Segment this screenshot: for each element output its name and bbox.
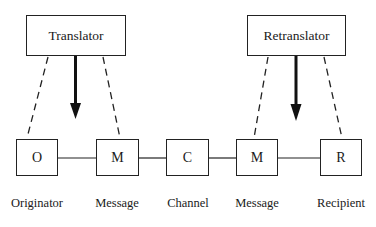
retranslator-arrowhead	[291, 104, 302, 121]
channel-caption: Channel	[148, 196, 228, 211]
originator-symbol: O	[32, 150, 42, 166]
message-caption-1: Message	[77, 196, 157, 211]
channel-node: C	[166, 139, 209, 176]
channel-symbol: C	[183, 150, 192, 166]
message-node-1: M	[96, 139, 139, 176]
recipient-node: R	[320, 139, 362, 176]
message-symbol-2: M	[251, 150, 263, 166]
translator-box: Translator	[26, 15, 126, 56]
retranslator-box: Retranslator	[247, 15, 346, 56]
recipient-caption: Recipient	[301, 196, 376, 211]
originator-node: O	[16, 139, 58, 176]
message-node-2: M	[236, 139, 278, 176]
originator-caption: Originator	[0, 196, 77, 211]
retranslator-label: Retranslator	[264, 28, 330, 44]
translator-label: Translator	[48, 28, 103, 44]
recipient-symbol: R	[336, 150, 345, 166]
translator-arrowhead	[70, 103, 81, 119]
message-symbol-1: M	[111, 150, 123, 166]
message-caption-2: Message	[217, 196, 297, 211]
